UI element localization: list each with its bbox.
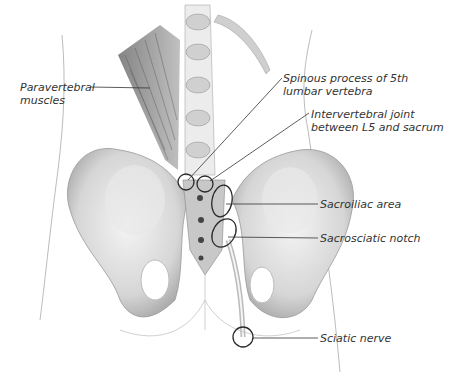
sacrum bbox=[183, 180, 225, 275]
label-line: Sacrosciatic notch bbox=[320, 232, 421, 245]
label-sciatic-nerve: Sciatic nerve bbox=[320, 332, 391, 345]
paravertebral-muscle bbox=[118, 25, 180, 170]
label-line: lumbar vertebra bbox=[283, 85, 408, 98]
rib bbox=[214, 15, 270, 74]
label-line: Spinous process of 5th bbox=[283, 72, 408, 85]
label-spinous-process: Spinous process of 5th lumbar vertebra bbox=[283, 72, 408, 98]
label-sacrosciatic-notch: Sacrosciatic notch bbox=[320, 232, 421, 245]
label-line: Intervertebral joint bbox=[311, 108, 444, 121]
anatomy-diagram: Paravertebral muscles Spinous process of… bbox=[0, 0, 454, 377]
label-paravertebral-muscles: Paravertebral muscles bbox=[20, 81, 95, 107]
illustration bbox=[0, 0, 454, 377]
label-line: Paravertebral bbox=[20, 81, 95, 94]
label-line: muscles bbox=[20, 94, 95, 107]
body-outline-left bbox=[40, 35, 64, 320]
left-iliac-fossa bbox=[105, 165, 165, 235]
label-line: Sciatic nerve bbox=[320, 332, 391, 345]
label-sacroiliac-area: Sacroiliac area bbox=[320, 198, 401, 211]
label-intervertebral-joint: Intervertebral joint between L5 and sacr… bbox=[311, 108, 444, 134]
label-line: between L5 and sacrum bbox=[311, 121, 444, 134]
right-iliac-fossa bbox=[262, 167, 318, 233]
sciatic-nerve-band bbox=[228, 240, 243, 337]
right-obturator bbox=[250, 267, 274, 303]
label-line: Sacroiliac area bbox=[320, 198, 401, 211]
left-obturator bbox=[141, 260, 169, 300]
